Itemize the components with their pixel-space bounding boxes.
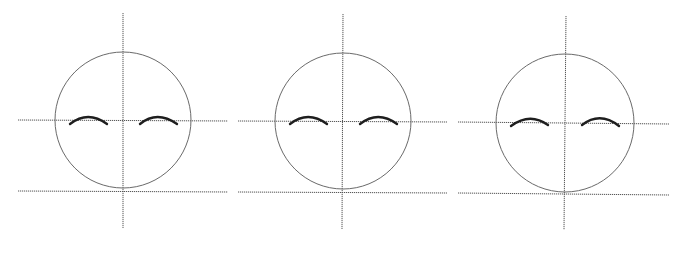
eye-line-guide	[458, 122, 669, 124]
right-eyebrow	[360, 117, 397, 124]
face-guide-drawing	[0, 0, 683, 261]
face-panel-1	[18, 13, 228, 228]
face-panel-2	[238, 14, 447, 229]
right-eyebrow	[582, 118, 619, 126]
diagram-canvas	[0, 0, 683, 261]
left-eyebrow	[511, 119, 548, 126]
chin-line-guide	[458, 193, 669, 195]
left-eyebrow	[290, 117, 327, 124]
face-panel-3	[458, 16, 669, 230]
